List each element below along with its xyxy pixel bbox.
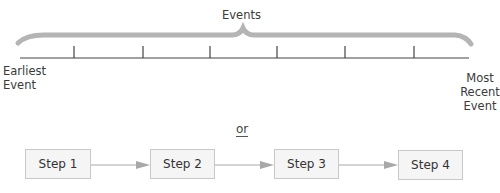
step-arrows [91,161,398,169]
timeline-ticks [74,46,414,58]
earliest-line-2: Event [3,78,46,92]
events-title: Events [222,8,261,22]
recent-line-3: Event [460,99,500,113]
step-2-box: Step 2 [150,149,215,179]
earliest-line-1: Earliest [3,64,46,78]
earliest-event-label: Earliest Event [3,64,46,92]
step-3-box: Step 3 [274,149,339,179]
or-separator: or [236,123,248,137]
most-recent-event-label: Most Recent Event [460,71,500,113]
events-brace [18,28,471,44]
step-1-box: Step 1 [25,149,91,179]
step-4-box: Step 4 [398,150,463,180]
recent-line-1: Most [460,71,500,85]
recent-line-2: Recent [460,85,500,99]
